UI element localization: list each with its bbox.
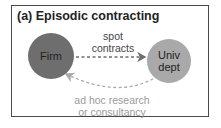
spot-label-line2: contracts (92, 42, 135, 54)
adhoc-label-line1: ad hoc research (74, 94, 149, 106)
univ-label-line2: dept (158, 61, 179, 73)
spot-contracts-label: spotcontracts (88, 30, 138, 54)
spot-label-line1: spot (103, 30, 123, 42)
univ-label-line1: Univ (158, 49, 180, 61)
firm-label: Firm (40, 50, 62, 62)
firm-node: Firm (28, 33, 74, 79)
univ-dept-node: Univdept (147, 39, 191, 83)
univ-dept-label: Univdept (158, 49, 180, 73)
adhoc-research-arrow (66, 74, 158, 88)
adhoc-label-line2: or consultancy (78, 106, 146, 118)
adhoc-research-label: ad hoc researchor consultancy (62, 94, 162, 118)
